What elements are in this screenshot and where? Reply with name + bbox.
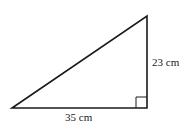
- right-angle-marker: [136, 97, 147, 108]
- diagram-canvas: 23 cm 35 cm: [0, 0, 191, 129]
- right-triangle: [12, 16, 147, 108]
- horizontal-side-label: 35 cm: [65, 112, 92, 123]
- vertical-side-label: 23 cm: [152, 57, 179, 68]
